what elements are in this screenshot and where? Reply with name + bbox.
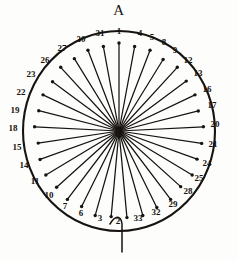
position-label: 27 — [58, 44, 67, 53]
spoke-endpoint-dot — [37, 109, 40, 112]
position-label: 2 — [116, 217, 121, 226]
position-label: 20 — [211, 120, 220, 129]
position-label: 16 — [203, 85, 212, 94]
spoke-endpoint-dot — [51, 80, 54, 83]
spoke-endpoint-dot — [59, 66, 62, 69]
position-label: 4 — [138, 29, 143, 38]
spoke-endpoint-dot — [38, 158, 41, 161]
spoke-endpoint-dot — [176, 66, 179, 69]
position-label: 8 — [162, 38, 167, 47]
spoke-endpoint-dot — [125, 216, 128, 219]
position-label: 7 — [63, 202, 68, 211]
position-label: 10 — [45, 191, 54, 200]
spoke-endpoint-dot — [148, 49, 151, 52]
position-label: 22 — [17, 88, 26, 97]
position-label: 23 — [27, 70, 36, 79]
spoke-line — [61, 67, 119, 131]
spoke-endpoint-dot — [55, 186, 58, 189]
spoke-endpoint-dot — [202, 125, 205, 128]
position-label: 3 — [98, 214, 103, 223]
spoke-endpoint-dot — [179, 185, 182, 188]
spoke-line — [67, 131, 119, 199]
position-label: 32 — [152, 208, 161, 217]
figure-container: A 14589121316172021242528293233236710111… — [0, 0, 238, 260]
spoke-endpoint-dot — [193, 93, 196, 96]
spoke-endpoint-dot — [102, 45, 105, 48]
position-label: 12 — [184, 56, 193, 65]
position-label: 17 — [208, 101, 217, 110]
spoke-endpoint-dot — [86, 49, 89, 52]
spoke-endpoint-dot — [200, 142, 203, 145]
position-label: 14 — [20, 161, 29, 170]
position-label: 31 — [96, 29, 105, 38]
position-label: 33 — [134, 214, 143, 223]
spoke-endpoint-dot — [185, 79, 188, 82]
position-label: 30 — [77, 35, 86, 44]
spoke-endpoint-dot — [133, 45, 136, 48]
position-label: 1 — [117, 27, 122, 36]
spoke-endpoint-dot — [197, 109, 200, 112]
position-label: 9 — [173, 46, 178, 55]
center-hub — [116, 128, 122, 134]
spoke-line — [119, 67, 177, 131]
spoke-line — [119, 131, 171, 199]
spoke-endpoint-dot — [73, 57, 76, 60]
position-label: 11 — [31, 177, 40, 186]
spoke-endpoint-dot — [41, 93, 44, 96]
position-label: 13 — [194, 69, 203, 78]
spoke-endpoint-dot — [190, 173, 193, 176]
position-label: 24 — [203, 159, 212, 168]
position-label: 25 — [195, 174, 204, 183]
position-label: 18 — [9, 124, 18, 133]
position-label: 15 — [13, 143, 22, 152]
spoke-endpoint-dot — [33, 125, 36, 128]
position-label: 6 — [79, 209, 84, 218]
spoke-endpoint-dot — [117, 41, 120, 44]
spoke-endpoint-dot — [109, 215, 112, 218]
spoke-endpoint-dot — [195, 157, 198, 160]
position-label: 26 — [41, 56, 50, 65]
position-label: 5 — [150, 33, 155, 42]
position-label: 21 — [209, 140, 218, 149]
spoke-endpoint-dot — [44, 173, 47, 176]
position-label: 29 — [169, 200, 178, 209]
position-label: 28 — [184, 187, 193, 196]
spoke-endpoint-dot — [37, 141, 40, 144]
spoke-endpoint-dot — [161, 58, 164, 61]
spoke-endpoint-dot — [94, 214, 97, 217]
position-label: 19 — [11, 106, 20, 115]
